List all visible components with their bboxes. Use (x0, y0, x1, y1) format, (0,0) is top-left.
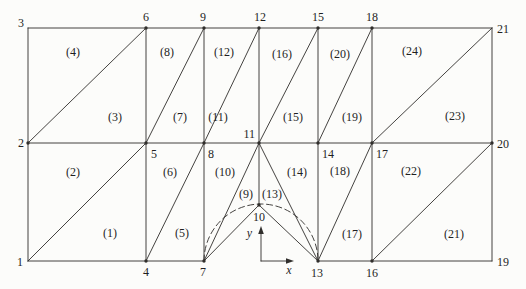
mesh-edge-17-21 (372, 28, 492, 143)
node-dot-7 (202, 259, 205, 262)
element-label-23: (23) (445, 109, 465, 123)
element-label-2: (2) (66, 165, 80, 179)
node-label-11: 11 (243, 127, 255, 141)
node-dot-15 (316, 26, 319, 29)
node-label-21: 21 (497, 22, 509, 36)
element-label-10: (10) (215, 165, 235, 179)
node-dot-2 (26, 141, 29, 144)
node-label-10: 10 (253, 210, 265, 224)
node-dot-13 (316, 259, 319, 262)
mesh-edge-11-13 (259, 143, 318, 261)
y-axis-label: y (246, 226, 253, 240)
node-label-1: 1 (17, 255, 23, 269)
element-label-19: (19) (342, 110, 362, 124)
node-dot-14 (316, 141, 319, 144)
element-label-12: (12) (214, 45, 234, 59)
mesh-edge-16-20 (372, 143, 492, 261)
node-label-19: 19 (497, 255, 509, 269)
x-axis-label: x (285, 263, 292, 277)
node-dot-5 (144, 141, 147, 144)
node-dot-8 (202, 141, 205, 144)
node-label-17: 17 (376, 147, 388, 161)
element-label-4: (4) (66, 45, 80, 59)
element-label-11: (11) (208, 110, 228, 124)
element-label-17: (17) (342, 227, 362, 241)
node-label-5: 5 (151, 147, 157, 161)
element-label-24: (24) (402, 44, 422, 58)
mesh-edge-1-5 (28, 143, 146, 261)
mesh-edge-11-15 (259, 28, 318, 143)
element-label-8: (8) (160, 45, 174, 59)
node-dot-18 (370, 26, 373, 29)
element-label-9: (9) (239, 187, 253, 201)
node-dot-6 (144, 26, 147, 29)
node-dot-17 (370, 141, 373, 144)
node-label-7: 7 (200, 265, 206, 279)
node-dot-16 (370, 259, 373, 262)
node-dot-9 (202, 26, 205, 29)
node-label-16: 16 (366, 266, 378, 280)
element-label-5: (5) (175, 226, 189, 240)
node-label-6: 6 (143, 10, 149, 24)
element-label-22: (22) (401, 164, 421, 178)
element-label-16: (16) (272, 47, 292, 61)
node-label-9: 9 (200, 10, 206, 24)
node-label-15: 15 (312, 10, 324, 24)
element-label-1: (1) (103, 226, 117, 240)
node-dot-4 (144, 259, 147, 262)
element-label-6: (6) (163, 165, 177, 179)
mesh-edge-10-13 (259, 205, 318, 261)
node-dot-11 (257, 141, 260, 144)
element-label-20: (20) (330, 47, 350, 61)
node-label-3: 3 (18, 16, 24, 30)
element-label-13: (13) (262, 187, 282, 201)
node-label-13: 13 (311, 266, 323, 280)
mesh-edge-14-18 (318, 28, 372, 143)
element-label-21: (21) (444, 227, 464, 241)
node-label-18: 18 (366, 10, 378, 24)
element-label-3: (3) (108, 110, 122, 124)
element-label-14: (14) (287, 165, 307, 179)
node-dot-10 (257, 203, 260, 206)
node-label-12: 12 (254, 10, 266, 24)
node-label-8: 8 (208, 147, 214, 161)
element-label-7: (7) (173, 110, 187, 124)
element-label-18: (18) (330, 164, 350, 178)
node-label-20: 20 (497, 137, 509, 151)
fem-mesh-diagram: xy123456789101112131415161718192021(1)(2… (0, 0, 526, 289)
element-label-15: (15) (283, 110, 303, 124)
mesh-edge-2-6 (28, 28, 146, 143)
y-axis-arrowhead-icon (258, 226, 264, 234)
mesh-edge-5-9 (146, 28, 204, 143)
node-label-4: 4 (143, 265, 149, 279)
node-dot-20 (490, 141, 493, 144)
node-dot-12 (257, 26, 260, 29)
node-label-14: 14 (322, 147, 334, 161)
node-label-2: 2 (18, 136, 24, 150)
